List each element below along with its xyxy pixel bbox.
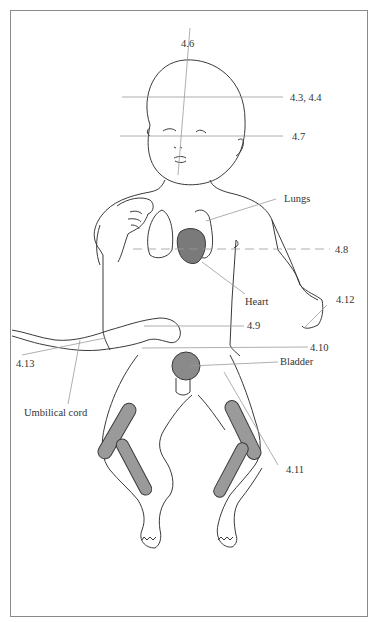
- label-4-12: 4.12: [336, 294, 354, 306]
- left-lung: [148, 210, 173, 258]
- left-tibia: [114, 437, 154, 497]
- line-4-10: [142, 347, 308, 348]
- label-4-3-4-4: 4.3, 4.4: [290, 92, 322, 104]
- label-4-9: 4.9: [247, 320, 260, 332]
- label-4-11: 4.11: [286, 464, 304, 476]
- left-leg: [102, 355, 192, 548]
- genitals: [176, 378, 190, 395]
- label-4-8: 4.8: [335, 244, 348, 256]
- right-tibia: [212, 441, 251, 500]
- eye-right: [196, 130, 206, 133]
- line-4-6: [178, 28, 190, 175]
- ear: [236, 139, 243, 156]
- label-bladder: Bladder: [280, 356, 313, 368]
- umbilical-cord: [12, 318, 180, 351]
- left-arm: [97, 198, 154, 265]
- label-4-6: 4.6: [181, 38, 194, 50]
- nose: [174, 147, 182, 148]
- left-foot-toes: [142, 537, 156, 540]
- label-4-10: 4.10: [310, 342, 328, 354]
- leader-heart: [202, 262, 245, 294]
- eye-left: [163, 129, 176, 131]
- label-4-7: 4.7: [292, 131, 305, 143]
- leader-4-12: [304, 305, 327, 328]
- label-lungs: Lungs: [284, 193, 310, 205]
- label-umbilical-cord: Umbilical cord: [24, 407, 87, 419]
- label-4-13: 4.13: [16, 358, 34, 370]
- mouth: [174, 157, 186, 163]
- right-foot-toes: [218, 537, 233, 540]
- head-outline: [147, 60, 245, 185]
- heart: [177, 229, 205, 264]
- label-heart: Heart: [245, 296, 268, 308]
